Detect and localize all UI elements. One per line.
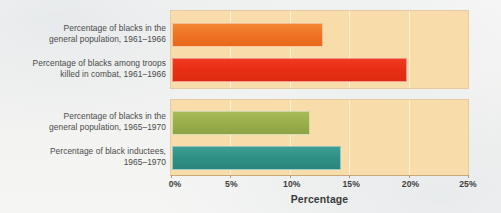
category-label-line-2: killed in combat, 1961–1966 [0,69,166,80]
x-tick-label-15: 15% [331,179,371,189]
category-label-line-2: 1965–1970 [0,157,166,168]
bar-general-population-1961[interactable] [172,23,323,47]
category-label-line-1: Percentage of black inductees, [0,146,166,157]
x-tick-label-0: 0% [155,179,195,189]
category-label-general-population-1961: Percentage of blacks in the general popu… [0,23,166,44]
chart-panel-1961-1966 [171,11,468,88]
bar-black-inductees-1965[interactable] [172,146,341,170]
bar-row-general-population-1961 [171,23,468,47]
bar-row-troops-killed-1961 [171,58,468,82]
bar-chart: Percentage of blacks in the general popu… [0,0,501,213]
category-label-general-population-1965: Percentage of blacks in the general popu… [0,111,166,132]
category-label-line-2: general population, 1961–1966 [0,34,166,45]
category-label-troops-killed-1961: Percentage of blacks among troops killed… [0,58,166,79]
x-tick-mark-10 [290,175,291,178]
x-tick-mark-20 [409,175,410,178]
x-tick-label-25: 25% [448,179,488,189]
chart-panel-1965-1970 [171,100,468,175]
category-label-line-1: Percentage of blacks among troops [0,58,166,69]
bar-row-black-inductees-1965 [171,146,468,170]
x-tick-label-20: 20% [391,179,431,189]
x-tick-mark-5 [230,175,231,178]
bar-general-population-1965[interactable] [172,111,310,135]
x-tick-mark-25 [468,175,469,178]
x-tick-mark-15 [349,175,350,178]
x-axis-line [171,175,468,176]
category-label-line-1: Percentage of blacks in the [0,111,166,122]
category-label-black-inductees-1965: Percentage of black inductees, 1965–1970 [0,146,166,167]
x-tick-label-10: 10% [272,179,312,189]
x-tick-mark-0 [171,175,172,178]
category-label-line-1: Percentage of blacks in the [0,23,166,34]
bar-row-general-population-1965 [171,111,468,135]
x-axis-title: Percentage [171,194,468,205]
category-label-line-2: general population, 1965–1970 [0,122,166,133]
x-tick-label-5: 5% [211,179,251,189]
bar-troops-killed-1961[interactable] [172,58,407,82]
